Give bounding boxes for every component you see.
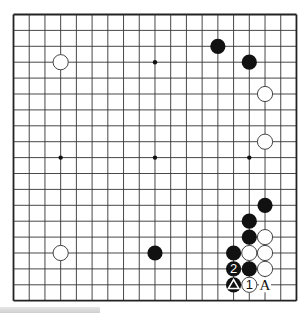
move-number-label: 2 [230, 261, 237, 276]
white-stone-body [242, 245, 257, 260]
black-stone[interactable]: 2 [226, 261, 241, 276]
black-stone[interactable] [242, 230, 257, 245]
stones-layer: 21 [53, 39, 273, 293]
black-stone[interactable] [210, 39, 225, 54]
black-stone-body [147, 245, 162, 260]
black-stone[interactable] [226, 245, 241, 260]
white-stone[interactable] [257, 261, 272, 276]
star-point [247, 155, 251, 159]
white-stone[interactable] [257, 134, 272, 149]
white-stone-body [257, 261, 272, 276]
white-stone[interactable] [242, 245, 257, 260]
black-stone[interactable] [147, 245, 162, 260]
black-stone[interactable] [242, 261, 257, 276]
white-stone[interactable] [53, 55, 68, 70]
black-stone[interactable] [257, 198, 272, 213]
star-point [153, 155, 157, 159]
white-stone-body [257, 134, 272, 149]
page-edge-shadow [0, 307, 100, 313]
white-stone[interactable]: 1 [242, 277, 257, 292]
black-stone-body [226, 245, 241, 260]
white-stone-body [257, 230, 272, 245]
black-stone-body [210, 39, 225, 54]
white-stone[interactable] [257, 245, 272, 260]
black-stone[interactable] [226, 277, 241, 292]
black-stone-body [257, 198, 272, 213]
black-stone-body [242, 55, 257, 70]
point-label: A [260, 277, 271, 293]
white-stone[interactable] [53, 245, 68, 260]
black-stone-body [242, 214, 257, 229]
white-stone-body [257, 86, 272, 101]
black-stone[interactable] [242, 214, 257, 229]
black-stone-body [242, 261, 257, 276]
star-point [153, 60, 157, 64]
white-stone[interactable] [257, 230, 272, 245]
white-stone-body [257, 245, 272, 260]
move-number-label: 1 [246, 277, 253, 292]
star-point [58, 155, 62, 159]
black-stone[interactable] [242, 55, 257, 70]
go-board[interactable]: 21 A [0, 0, 306, 317]
annotations-layer: A [259, 277, 271, 293]
white-stone-body [53, 245, 68, 260]
white-stone[interactable] [257, 86, 272, 101]
black-stone-body [242, 230, 257, 245]
white-stone-body [53, 55, 68, 70]
